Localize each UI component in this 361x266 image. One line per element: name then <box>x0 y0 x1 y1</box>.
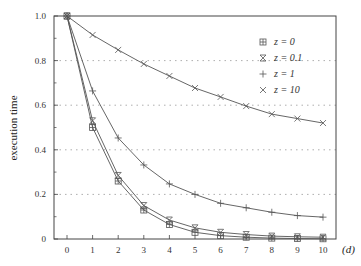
data-point <box>294 212 301 219</box>
x-tick-label: 10 <box>319 245 329 255</box>
legend-marker <box>260 39 266 45</box>
data-point <box>89 87 96 94</box>
series-line <box>67 16 323 239</box>
x-tick-label: 1 <box>90 245 95 255</box>
x-tick-label: 7 <box>244 245 249 255</box>
y-tick-label: 0.8 <box>35 56 47 66</box>
x-tick-label: 9 <box>295 245 300 255</box>
data-point <box>141 61 147 67</box>
y-tick-label: 0 <box>42 234 47 244</box>
legend-label: z = 10 <box>273 84 300 95</box>
data-point <box>192 85 198 91</box>
y-tick-label: 0.6 <box>35 100 47 110</box>
legend-label: z = 1 <box>273 68 295 79</box>
legend-item: z = 0 <box>260 36 295 47</box>
x-tick-label: 4 <box>167 245 172 255</box>
y-tick-label: 0.4 <box>35 145 47 155</box>
data-point <box>268 209 275 216</box>
data-point <box>218 94 224 100</box>
legend-label: z = 0.1 <box>273 52 302 63</box>
x-tick-label: 5 <box>193 245 198 255</box>
data-point <box>115 47 121 53</box>
chart: 00.20.40.60.81.0012345678910 z = 0z = 0.… <box>0 0 361 266</box>
legend-item: z = 10 <box>260 84 300 95</box>
data-point <box>90 118 96 124</box>
axis-ticks: 00.20.40.60.81.0012345678910 <box>35 11 328 255</box>
data-point <box>217 200 224 207</box>
data-point <box>192 191 199 198</box>
y-axis-label: execution time <box>7 95 19 160</box>
data-point <box>166 73 172 79</box>
y-tick-label: 0.2 <box>35 189 46 199</box>
legend-item: z = 0.1 <box>260 52 302 63</box>
legend-marker <box>260 71 267 78</box>
legend-marker <box>260 87 266 93</box>
data-point <box>166 180 173 187</box>
legend-item: z = 1 <box>260 68 295 79</box>
plot-frame <box>54 16 336 239</box>
x-axis-label: (d) <box>342 243 355 256</box>
data-point <box>243 204 250 211</box>
grid-lines <box>54 61 336 195</box>
x-tick-label: 0 <box>65 245 70 255</box>
series-z=0 <box>64 13 326 242</box>
data-point <box>115 172 121 178</box>
y-tick-label: 1.0 <box>35 11 47 21</box>
x-tick-label: 3 <box>142 245 147 255</box>
x-tick-label: 6 <box>218 245 223 255</box>
data-point <box>90 32 96 38</box>
legend-label: z = 0 <box>273 36 295 47</box>
series-line <box>67 16 323 237</box>
data-point <box>320 214 327 221</box>
series-z=0.1 <box>64 13 326 240</box>
legend-marker <box>260 55 266 61</box>
x-tick-label: 8 <box>270 245 275 255</box>
x-tick-label: 2 <box>116 245 121 255</box>
data-point <box>243 103 249 109</box>
legend: z = 0z = 0.1z = 1z = 10 <box>260 36 303 95</box>
